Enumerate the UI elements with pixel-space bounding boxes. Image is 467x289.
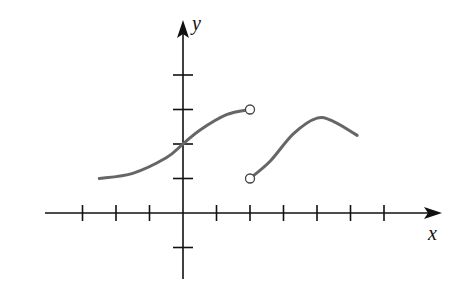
graph: x y <box>0 0 467 289</box>
y-axis-label: y <box>190 12 201 35</box>
open-endpoint-icon <box>246 105 255 114</box>
piece-2-curve <box>250 117 357 178</box>
x-axis-label: x <box>427 222 437 244</box>
curves <box>99 105 357 183</box>
open-endpoint-icon <box>246 174 255 183</box>
